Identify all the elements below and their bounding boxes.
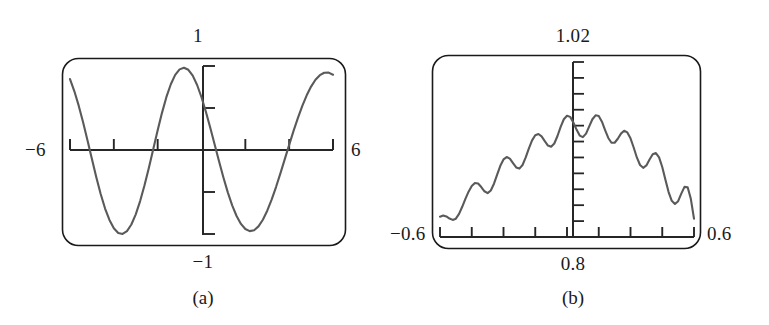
y-min-label-a: −1 <box>193 252 214 271</box>
panel-b-plot-area <box>385 0 769 325</box>
calculator-screen-panel-a: 1 −1 −6 6 (a) <box>0 0 384 325</box>
y-max-label-a: 1 <box>193 26 203 45</box>
calculator-frame-b <box>433 56 701 249</box>
panel-caption-b: (b) <box>562 288 584 307</box>
x-center-label-b: 0.8 <box>561 254 586 273</box>
panel-caption-a: (a) <box>192 288 213 307</box>
figure-root: 1 −1 −6 6 (a) 1.02 0.8 −0.6 0.6 (b) <box>0 0 769 325</box>
y-max-label-b: 1.02 <box>556 26 590 45</box>
panel-a-plot-area <box>0 0 384 325</box>
x-min-label-b: −0.6 <box>390 224 426 243</box>
x-max-label-b: 0.6 <box>707 224 732 243</box>
x-min-label-a: −6 <box>25 140 46 159</box>
calculator-screen-panel-b: 1.02 0.8 −0.6 0.6 (b) <box>385 0 769 325</box>
x-max-label-a: 6 <box>351 140 361 159</box>
